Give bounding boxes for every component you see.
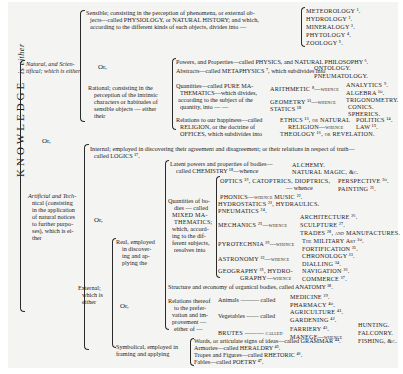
law: LAW ¹⁵. bbox=[356, 123, 378, 130]
phonics: PHONICS—whence MUSIC ²². bbox=[220, 193, 303, 200]
relations2-line-5: either of — bbox=[174, 325, 203, 332]
artificial-line-5: to further purpo- bbox=[32, 220, 73, 227]
military-art: The MILITARY Art ³⁰. bbox=[302, 237, 364, 244]
hunting: HUNTING. bbox=[358, 321, 389, 328]
symbolical-rhetoric: Tropes and Figures—called RHETORIC ⁴⁶. bbox=[194, 351, 302, 358]
sculpture: SCULPTURE ²⁷. bbox=[300, 221, 345, 228]
pneumatology: PNEUMATOLOGY. bbox=[314, 72, 368, 79]
sensible-line-3: according to the different kinds of such… bbox=[90, 23, 246, 30]
external-bracket bbox=[112, 238, 116, 348]
perspective: PERSPECTIVE ²⁰. bbox=[338, 177, 389, 184]
optics: OPTICS ¹⁹, CATOPTRICS, DIOPTRICS, bbox=[220, 177, 330, 184]
religion: RELIGION—whence bbox=[288, 123, 344, 130]
animals: Animals ——— called bbox=[218, 296, 275, 303]
mixed-line-4: THEMATICS; bbox=[174, 218, 212, 225]
mixed-line-3: MIXED MA- bbox=[172, 211, 208, 218]
natural-bracket bbox=[80, 10, 85, 122]
algebra: ALGEBRA ¹⁰. bbox=[346, 89, 385, 96]
artificial-line-1: Artificial and Tech- bbox=[28, 192, 76, 199]
politics: POLITICS ¹⁴. bbox=[356, 116, 393, 123]
abstracts-line: Abstracts—called METAPHYSICS ⁷, which su… bbox=[176, 67, 325, 74]
pharmacy: PHARMACY ⁴⁰. bbox=[290, 301, 335, 308]
mixed-line-5: which, accord- bbox=[172, 225, 209, 232]
symbolical-grammar: Words, or articulate signs of ideas—call… bbox=[194, 337, 341, 344]
document-page: KNOWLEDGE is either Natural, and Scien-t… bbox=[8, 2, 398, 368]
main-or: Or, bbox=[42, 138, 51, 145]
quantities-line-4: quantity, into — — bbox=[180, 103, 228, 110]
natural-label: Natural, and Scien-tifical; which is eit… bbox=[26, 60, 82, 74]
ontology: ONTOLOGY. bbox=[314, 64, 351, 71]
symbolical-line-2: framing and applying bbox=[116, 350, 169, 357]
hydrostatics: HYDROSTATICS ²³, HYDRAULICS. bbox=[218, 200, 319, 207]
conics: CONICS. bbox=[348, 103, 374, 110]
fortification: FORTIFICATION ³¹. bbox=[302, 245, 358, 252]
rational-line-5: their bbox=[94, 112, 105, 119]
relations2-line-2: to the prefer- bbox=[174, 304, 206, 311]
dialling: DIALLING ³⁴. bbox=[302, 260, 341, 267]
theology: THEOLOGY ¹⁶, or REVELATION. bbox=[280, 130, 375, 137]
gardening: GARDENING ⁴². bbox=[290, 316, 336, 323]
mixed-line-1: Quantities of bo- bbox=[168, 197, 210, 204]
latent-line-1: Latent powers and properties of bodies— bbox=[170, 160, 273, 167]
ethics: ETHICS ¹³, or NATURAL bbox=[280, 116, 350, 123]
fishing: FISHING, &c. bbox=[358, 337, 397, 344]
falconry: FALCONRY. bbox=[358, 329, 393, 336]
natural-or: Or, bbox=[98, 64, 107, 71]
trades: TRADES ²⁸, and MANUFACTURES. bbox=[300, 229, 400, 236]
relations-line-1: Relations to our happiness—called bbox=[176, 116, 262, 123]
brutes: BRUTES ——— called bbox=[218, 329, 283, 336]
real-bracket bbox=[165, 160, 169, 330]
mechanics: MECHANICS ²⁵—whence bbox=[218, 221, 287, 228]
sensible-divisions-bracket bbox=[301, 7, 305, 47]
quantities-line-3: according to the subject of the bbox=[178, 96, 253, 103]
mixed-line-7: ferent subjects, bbox=[172, 239, 209, 246]
mixed-line-2: dies — called bbox=[174, 204, 208, 211]
real-line-3: ing and ap- bbox=[122, 252, 150, 259]
real-line-4: plying the bbox=[122, 259, 147, 266]
astronomy: ASTRONOMY ³²—whence bbox=[218, 255, 289, 262]
artificial-or: Or, bbox=[94, 217, 103, 224]
geography-2: GRAPHY—whence bbox=[240, 274, 291, 281]
commerce: COMMERCE ³⁷. bbox=[302, 275, 347, 282]
artificial-line-7: ther bbox=[32, 234, 42, 241]
alchemy: ALCHEMY. bbox=[292, 161, 325, 168]
medicine: MEDICINE ³⁹. bbox=[290, 293, 330, 300]
relations-line-2: RELIGION, or the doctrine of bbox=[180, 123, 255, 130]
artificial-line-2: nical (consisting bbox=[32, 199, 73, 206]
chronology: CHRONOLOGY ³³. bbox=[302, 252, 355, 259]
sensible-line-1: Sensible; consisting in the perception o… bbox=[86, 9, 255, 16]
rational-line-4: sensible objects — either bbox=[94, 105, 156, 112]
external-line-2: which is bbox=[82, 291, 103, 298]
arithmetic: ARITHMETIC ⁸—whence bbox=[270, 85, 339, 92]
agriculture: AGRICULTURE ⁴¹. bbox=[290, 308, 343, 315]
external-or: Or, bbox=[120, 303, 129, 310]
symbolical-heraldry: Armories—called HERALDRY ⁴⁵. bbox=[194, 344, 280, 351]
real-line-2: in discover- bbox=[122, 245, 151, 252]
sensible-line-2: jects—called PHYSIOLOGY, or NATURAL HIST… bbox=[90, 16, 259, 23]
trigonometry: TRIGONOMETRY. bbox=[346, 96, 399, 103]
external-line-1: External; bbox=[78, 284, 101, 291]
division-phytology: PHYTOLOGY ⁴. bbox=[306, 31, 351, 38]
artificial-line-4: of natural notices bbox=[32, 213, 75, 220]
pyrotechnia: PYROTECHNIA ²⁹—whence bbox=[218, 240, 294, 247]
optics-whence: — whence bbox=[286, 184, 313, 191]
symbolical-line-1: Symbolical, employed in bbox=[116, 343, 178, 350]
internal-line-1: Internal; employed in discovering their … bbox=[90, 145, 355, 152]
internal-line-2: called LOGICS ¹⁷. bbox=[94, 152, 140, 159]
artificial-bracket bbox=[84, 144, 89, 350]
structure-line: Structure and œconomy of organical bodie… bbox=[168, 283, 333, 290]
relations-line-3: OFFICES, which subdivides into bbox=[180, 130, 262, 137]
geography-1: GEOGRAPHY ³⁵, HYDRO- bbox=[218, 267, 293, 274]
division-hydrology: HYDROLOGY ². bbox=[306, 15, 352, 22]
relations2-line-3: vation and im- bbox=[172, 311, 208, 318]
symbolical-poetry: Fables—called POETRY ⁴⁷. bbox=[194, 358, 264, 365]
vegetables: Vegetables —— called bbox=[218, 312, 275, 319]
artificial-line-3: in the application bbox=[32, 206, 75, 213]
navigation: NAVIGATION ³⁶. bbox=[302, 267, 350, 274]
root-bracket bbox=[20, 60, 25, 312]
division-meteorology: METEOROLOGY ¹. bbox=[306, 7, 361, 14]
rational-line-2: perception of the intrinsic bbox=[94, 91, 158, 98]
rational-line-1: Rational; consisting in the bbox=[88, 84, 153, 91]
rational-line-3: characters or habitudes of bbox=[94, 98, 158, 105]
quantities-line-2: THEMATICS—which divides, bbox=[180, 89, 257, 96]
